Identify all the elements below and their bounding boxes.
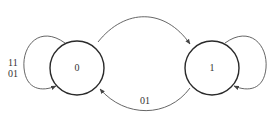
state-1-label: 1 — [210, 62, 215, 73]
edge-1-to-0-label: 01 — [140, 95, 150, 106]
edge-0-to-1 — [98, 17, 190, 44]
state-0-label: 0 — [75, 62, 80, 73]
self-loop-0-label-2: 01 — [8, 68, 18, 79]
state-1: 1 — [185, 41, 239, 95]
self-loop-0-label-1: 11 — [8, 57, 18, 68]
state-0: 0 — [50, 41, 104, 95]
edge-1-to-0: 01 — [100, 88, 190, 111]
state-diagram: 01 11 01 0 1 — [0, 0, 278, 122]
